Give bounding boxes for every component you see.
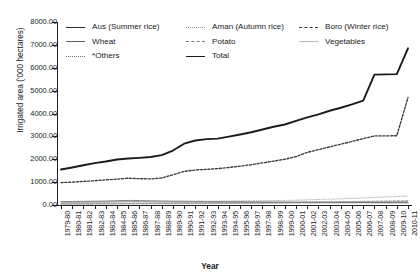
x-tick-mark [106,205,107,209]
x-tick-label: 1991-92 [198,211,205,236]
y-tick-label: 0.00 [0,201,57,202]
x-axis-title: Year [0,262,420,270]
x-tick-label: 2009-10 [400,211,407,236]
x-tick-label: 1997-98 [265,211,272,236]
x-tick-label: 1998-99 [277,211,284,236]
x-tick-mark [83,205,84,209]
y-tick-text: 7000.00 [9,41,57,48]
x-tick-label: 1980-81 [75,211,82,236]
x-tick-mark [240,205,241,209]
y-tick-text: 8000.00 [9,18,57,25]
x-tick-label: 1987-88 [154,211,161,236]
x-tick-mark [274,205,275,209]
y-tick-text: 6000.00 [9,64,57,71]
chart-figure: Irrigated area ('000 hectares) 8000.0070… [0,0,420,279]
x-tick-label: 2002-03 [321,211,328,236]
x-tick-mark [184,205,185,209]
x-tick-label: 1999-00 [288,211,295,236]
x-tick-label: 1979-80 [64,211,71,236]
x-tick-mark [195,205,196,209]
x-tick-mark [229,205,230,209]
x-tick-label: 1990-91 [187,211,194,236]
x-tick-mark [363,205,364,209]
x-tick-label: 1993-94 [221,211,228,236]
y-tick-label: 4000.00 [0,110,57,111]
x-tick-mark [162,205,163,209]
y-tick-text: 4000.00 [9,110,57,117]
x-tick-mark [207,205,208,209]
y-tick-text: 3000.00 [9,132,57,139]
x-tick-label: 2003-04 [333,211,340,236]
x-tick-label: 1996-97 [254,211,261,236]
x-tick-mark [330,205,331,209]
y-tick-text: 0.00 [9,201,57,208]
x-tick-label: 1988-89 [165,211,172,236]
x-tick-label: 1989-90 [176,211,183,236]
x-tick-label: 1985-86 [131,211,138,236]
x-tick-label: 1992-93 [210,211,217,236]
x-tick-mark [296,205,297,209]
x-tick-mark [408,205,409,209]
x-tick-mark [386,205,387,209]
series-line [61,97,408,182]
x-tick-mark [139,205,140,209]
x-tick-label: 1984-85 [120,211,127,236]
x-axis-line [57,205,412,206]
y-tick-text: 1000.00 [9,178,57,185]
plot-area [57,22,412,205]
x-tick-label: 2008-09 [389,211,396,236]
x-tick-label: 2010-11 [411,211,418,236]
x-tick-mark [262,205,263,209]
y-tick-label: 2000.00 [0,155,57,156]
x-tick-label: 2001-02 [310,211,317,236]
x-tick-mark [117,205,118,209]
y-tick-label: 8000.00 [0,18,57,19]
x-tick-mark [128,205,129,209]
x-tick-label: 1995-96 [243,211,250,236]
x-tick-mark [397,205,398,209]
series-layer [57,22,412,205]
x-tick-label: 1986-87 [142,211,149,236]
x-tick-mark [352,205,353,209]
x-tick-mark [95,205,96,209]
x-tick-label: 2007-08 [377,211,384,236]
x-tick-label: 2000-01 [299,211,306,236]
x-tick-mark [151,205,152,209]
y-tick-text: 2000.00 [9,155,57,162]
y-tick-label: 6000.00 [0,64,57,65]
y-tick-text: 5000.00 [9,87,57,94]
y-tick-label: 5000.00 [0,87,57,88]
y-tick-label: 1000.00 [0,178,57,179]
x-tick-mark [72,205,73,209]
y-axis-title: Irrigated area ('000 hectares) [17,15,25,145]
x-tick-mark [341,205,342,209]
x-tick-mark [307,205,308,209]
x-tick-mark [285,205,286,209]
x-tick-label: 2006-07 [366,211,373,236]
x-tick-mark [173,205,174,209]
x-tick-label: 1983-84 [109,211,116,236]
x-tick-mark [218,205,219,209]
series-line [61,48,408,169]
x-tick-mark [374,205,375,209]
x-tick-label: 1994-95 [232,211,239,236]
y-tick-label: 7000.00 [0,41,57,42]
y-tick-label: 3000.00 [0,132,57,133]
x-tick-mark [61,205,62,209]
x-tick-mark [251,205,252,209]
x-tick-label: 1981-82 [86,211,93,236]
x-tick-label: 2004-05 [344,211,351,236]
x-tick-label: 2005-06 [355,211,362,236]
x-tick-mark [318,205,319,209]
x-tick-label: 1982-83 [98,211,105,236]
